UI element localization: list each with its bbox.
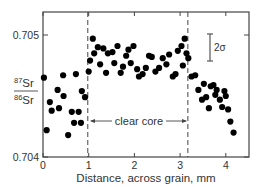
data-point (178, 43, 184, 49)
data-point (55, 87, 61, 93)
scatter-chart: 2σ clear core 01234 0.7040.705 Distance,… (0, 0, 262, 187)
data-point (203, 94, 209, 100)
x-axis-label: Distance, across grain, mm (76, 172, 215, 184)
data-point (160, 55, 166, 61)
data-point (172, 71, 178, 77)
data-point (217, 97, 223, 103)
data-point (156, 65, 162, 71)
y-tick-label: 0.704 (13, 151, 39, 163)
data-point (166, 51, 172, 57)
y-axis-label: 87Sr 86Sr (14, 76, 38, 106)
x-tick-label: 3 (177, 159, 183, 171)
error-bar-label: 2σ (214, 42, 227, 53)
data-point (49, 108, 55, 114)
data-point (118, 70, 124, 76)
data-point (140, 71, 146, 77)
x-tick-label: 2 (131, 159, 137, 171)
data-point (114, 43, 120, 49)
data-point (41, 75, 47, 81)
data-point (111, 60, 117, 66)
plot-frame (43, 12, 249, 157)
data-point (134, 66, 140, 72)
data-point (44, 127, 50, 133)
data-point (71, 120, 77, 126)
data-point (230, 130, 236, 136)
data-point (100, 45, 106, 51)
x-tick-labels: 01234 (40, 159, 229, 171)
data-point (130, 43, 136, 49)
data-point (182, 36, 188, 42)
data-point (219, 104, 225, 110)
data-point (65, 132, 71, 138)
svg-text:86Sr: 86Sr (14, 93, 34, 106)
data-point (47, 99, 53, 105)
data-point (125, 47, 131, 53)
data-point (69, 109, 75, 115)
data-point (227, 119, 233, 125)
data-point (76, 109, 82, 115)
data-point (214, 87, 220, 93)
data-point (95, 44, 101, 50)
x-tick-label: 4 (223, 159, 229, 171)
data-point (206, 105, 212, 111)
data-point (97, 61, 103, 67)
data-point (223, 93, 229, 99)
data-point (201, 81, 207, 87)
data-point (87, 58, 93, 64)
data-point (60, 93, 66, 99)
error-bar (207, 34, 213, 61)
clear-core-label: clear core (115, 115, 163, 127)
core-boundary-lines (88, 12, 188, 157)
data-point (143, 65, 149, 71)
data-point (109, 49, 115, 55)
data-point (78, 120, 84, 126)
data-point (185, 55, 191, 61)
data-point (103, 70, 109, 76)
data-point (120, 64, 126, 70)
data-point (56, 105, 62, 111)
data-point (163, 61, 169, 67)
data-point (90, 36, 96, 42)
data-point (91, 50, 97, 56)
y-tick-label: 0.705 (13, 29, 39, 41)
data-point (123, 53, 129, 59)
data-point (128, 60, 134, 66)
data-point (225, 106, 231, 112)
svg-text:87Sr: 87Sr (14, 76, 34, 89)
data-point (149, 54, 155, 60)
data-point (79, 88, 85, 94)
axis-ticks (43, 12, 249, 157)
data-point (82, 94, 88, 100)
data-point (73, 71, 79, 77)
data-point (180, 62, 186, 68)
x-tick-label: 1 (86, 159, 92, 171)
data-point (192, 72, 198, 78)
data-point (195, 87, 201, 93)
x-tick-label: 0 (40, 159, 46, 171)
data-point (86, 69, 92, 75)
data-point (60, 72, 66, 78)
